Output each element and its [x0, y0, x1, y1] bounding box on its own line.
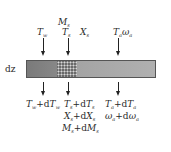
- solution-film-region: [57, 61, 77, 77]
- label-Xs: Xs: [80, 27, 89, 40]
- label-Ts: Ts: [62, 27, 71, 40]
- label-wa-out: ωa+dωa: [105, 111, 139, 124]
- label-Ta-wa: Taωa: [113, 27, 132, 40]
- arrow-in-wall: [43, 38, 44, 52]
- element-length-label: dz: [5, 64, 16, 74]
- arrow-in-air: [118, 38, 119, 52]
- label-Ms-out: Ms+dMs: [62, 123, 99, 136]
- arrow-out-air: [118, 82, 119, 92]
- arrow-out-solution: [68, 82, 69, 92]
- label-Tw-out: Tw+dTw: [26, 99, 60, 112]
- arrow-out-wall: [43, 82, 44, 92]
- control-volume-bar: [26, 60, 156, 78]
- arrow-in-solution: [68, 38, 69, 52]
